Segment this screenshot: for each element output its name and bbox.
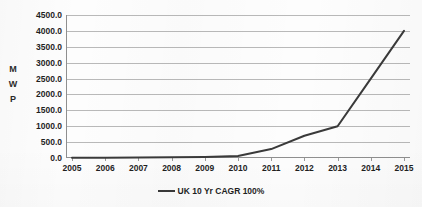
x-axis-tick-label: 2005 — [63, 163, 82, 173]
x-axis-tick-label: 2008 — [162, 163, 181, 173]
y-axis-tick-label: 4500.0 — [10, 10, 62, 20]
x-axis-tick-label: 2007 — [129, 163, 148, 173]
y-axis-tick-label: 4000.0 — [10, 26, 62, 36]
y-axis-tick-label: 2000.0 — [10, 89, 62, 99]
x-axis-tick-label: 2009 — [195, 163, 214, 173]
y-axis-tick-label: 1000.0 — [10, 121, 62, 131]
x-axis-tick-label: 2011 — [262, 163, 280, 173]
y-axis-tick-label: 3000.0 — [10, 58, 62, 68]
y-axis-tick-labels: 0.0500.01000.01500.02000.02500.03000.035… — [10, 0, 62, 207]
x-axis-tick-label: 2012 — [295, 163, 314, 173]
chart-container: M W P 0.0500.01000.01500.02000.02500.030… — [0, 0, 422, 207]
y-axis-tick-label: 1500.0 — [10, 105, 62, 115]
x-axis-tick-label: 2006 — [96, 163, 115, 173]
x-axis-tick-label: 2010 — [229, 163, 248, 173]
y-axis-tick-label: 2500.0 — [10, 74, 62, 84]
x-axis-tick-label: 2013 — [328, 163, 347, 173]
y-axis-tick-label: 3500.0 — [10, 42, 62, 52]
x-axis-tick-labels: 2005200620072008200920102011201220132014… — [66, 0, 410, 207]
y-axis-tick-label: 0.0 — [10, 153, 62, 163]
chart-legend: UK 10 Yr CAGR 100% — [0, 186, 422, 196]
x-axis-tick-label: 2014 — [361, 163, 380, 173]
x-axis-tick-label: 2015 — [395, 163, 414, 173]
y-axis-tick-label: 500.0 — [10, 137, 62, 147]
legend-line-swatch-icon — [158, 190, 175, 192]
legend-label: UK 10 Yr CAGR 100% — [178, 186, 265, 196]
